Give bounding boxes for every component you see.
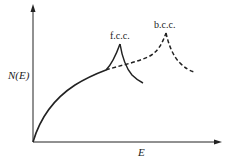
solid-curve-base [33,70,106,142]
fcc-peak-left [106,44,120,70]
y-axis-arrow-icon [31,4,36,12]
dos-diagram: f.c.c. b.c.c. N(E) E [0,0,228,162]
fcc-label: f.c.c. [110,30,130,41]
y-axis-label: N(E) [7,69,30,82]
bcc-label: b.c.c. [154,19,175,30]
x-axis-arrow-icon [214,140,222,145]
bcc-curve-right [166,33,194,72]
x-axis-label: E [137,146,145,158]
